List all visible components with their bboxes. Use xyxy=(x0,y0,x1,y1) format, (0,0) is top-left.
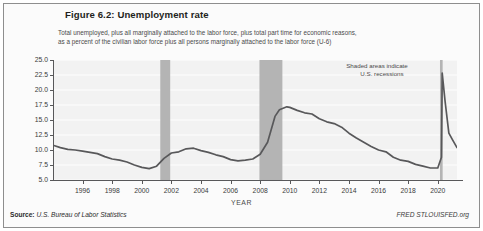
source-value: U.S. Bureau of Labor Statistics xyxy=(36,211,126,218)
recession-band xyxy=(160,60,170,180)
source-label: Source: xyxy=(10,211,35,218)
recession-annotation-line-2: U.S. recessions xyxy=(322,70,432,78)
recession-annotation: Shaded areas indicate U.S. recessions xyxy=(322,62,432,78)
fred-credit: FRED STLOUISFED.org xyxy=(396,211,469,218)
chart-subtitle: Total unemployed, plus all marginally at… xyxy=(58,29,448,46)
x-axis-label: YEAR xyxy=(0,199,483,206)
chart-subtitle-line-2: as a percent of the civilian labor force… xyxy=(58,38,448,47)
source-note: Source: U.S. Bureau of Labor Statistics xyxy=(10,211,127,218)
figure-screenshot: Figure 6.2: Unemployment rate Total unem… xyxy=(0,0,483,231)
chart-subtitle-line-1: Total unemployed, plus all marginally at… xyxy=(58,29,448,38)
recession-band xyxy=(259,60,282,180)
page-title: Figure 6.2: Unemployment rate xyxy=(65,9,209,20)
recession-annotation-line-1: Shaded areas indicate xyxy=(322,62,432,70)
